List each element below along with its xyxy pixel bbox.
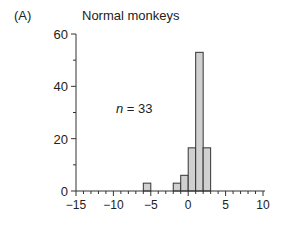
histogram-bar: [143, 183, 150, 191]
x-tick-label: 0: [185, 198, 192, 212]
y-tick-label: 20: [54, 132, 68, 147]
histogram-chart: (A) Normal monkeys n = 33 −15−10−5051002…: [0, 0, 282, 225]
chart-title: Normal monkeys: [82, 8, 180, 23]
panel-label: (A): [14, 8, 31, 23]
x-tick-label: 5: [222, 198, 229, 212]
x-tick-label: −10: [103, 198, 124, 212]
axes-group: −15−10−505100204060: [54, 27, 270, 212]
n-annotation: n = 33: [116, 101, 153, 116]
bars-group: [143, 52, 210, 191]
histogram-bar: [173, 183, 180, 191]
histogram-bar: [203, 148, 210, 191]
x-tick-label: −5: [144, 198, 158, 212]
y-tick-label: 40: [54, 79, 68, 94]
histogram-bar: [181, 175, 188, 191]
x-tick-label: −15: [66, 198, 87, 212]
histogram-bar: [188, 148, 195, 191]
y-tick-label: 0: [61, 184, 68, 199]
x-tick-label: 10: [256, 198, 270, 212]
histogram-bar: [196, 52, 203, 191]
y-tick-label: 60: [54, 27, 68, 42]
